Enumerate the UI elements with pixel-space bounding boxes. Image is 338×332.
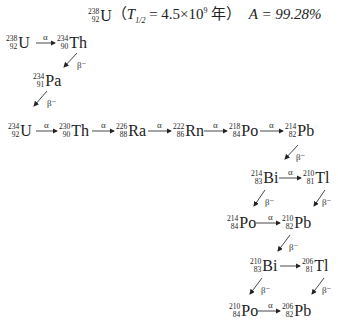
nuclide-ra226: 22688Ra: [116, 122, 146, 140]
nuclide-bi214: 21483Bi: [251, 169, 278, 187]
nuclide-pb214: 21482Pb: [285, 122, 314, 140]
nuclide-th230: 23090Th: [59, 122, 89, 140]
nuclide-pb206: 20682Pb: [282, 302, 311, 320]
alpha-label: α: [213, 120, 218, 130]
nuclide-tl210: 21081Tl: [303, 169, 329, 187]
nuclide-bi210: 21083Bi: [250, 257, 277, 275]
alpha-label: α: [157, 120, 162, 130]
beta-label: β⁻: [265, 197, 274, 207]
alpha-label: α: [268, 212, 273, 222]
nuclide-po214: 21484Po: [227, 214, 256, 232]
alpha-label: α: [44, 120, 49, 130]
beta-label: β⁻: [296, 152, 305, 162]
nuclide-pb210: 21082Pb: [282, 214, 311, 232]
beta-label: β⁻: [261, 285, 270, 295]
alpha-label: α: [269, 120, 274, 130]
beta-label: β⁻: [289, 242, 298, 252]
nuclide-pa234: 23491Pa: [33, 72, 61, 90]
nuclide-rn222: 22286Rn: [173, 122, 204, 140]
beta-label: β⁻: [322, 285, 331, 295]
beta-label: β⁻: [322, 197, 331, 207]
nuclide-u234: 23492U: [8, 122, 32, 140]
nuclide-th234: 23490Th: [57, 34, 87, 52]
decay-arrows: [0, 0, 338, 332]
beta-label: β⁻: [47, 98, 56, 108]
alpha-label: α: [288, 167, 293, 177]
nuclide-po210: 21084Po: [229, 302, 258, 320]
nuclide-po218: 21884Po: [229, 122, 258, 140]
nuclide-tl206: 20681Tl: [302, 257, 328, 275]
beta-label: β⁻: [77, 60, 86, 70]
nuclide-u238: 23892U: [6, 34, 30, 52]
alpha-label: α: [101, 120, 106, 130]
alpha-label: α: [268, 300, 273, 310]
alpha-label: α: [43, 32, 48, 42]
